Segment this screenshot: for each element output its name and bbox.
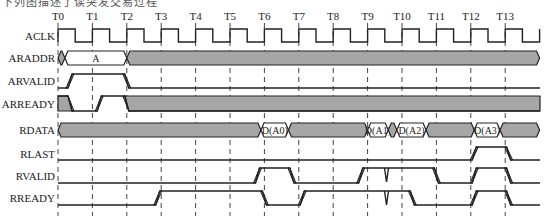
bus-undefined [58, 51, 65, 65]
time-label-t3: T3 [155, 10, 168, 22]
time-label-t4: T4 [189, 10, 202, 22]
signal-labels: ACLKARADDRARVALIDARREADYRDATARLASTRVALID… [2, 30, 56, 205]
wave-aclk [58, 29, 540, 42]
time-label-t8: T8 [327, 10, 340, 22]
bus-undefined [426, 123, 474, 137]
time-label-t11: T11 [428, 10, 445, 22]
bus-value-label: D(A2) [398, 125, 424, 137]
signal-label-rready: RREADY [10, 192, 55, 204]
time-label-t1: T1 [86, 10, 98, 22]
time-label-t9: T9 [361, 10, 374, 22]
signal-label-arready: ARREADY [2, 98, 55, 110]
time-label-t5: T5 [224, 10, 237, 22]
wave-rdata: D(A0)D(A1)D(A2)D(A3) [58, 123, 540, 137]
signal-label-aclk: ACLK [25, 30, 55, 42]
bus-undefined [500, 123, 540, 137]
wave-arready [58, 96, 540, 111]
glitch [385, 168, 389, 182]
time-label-t7: T7 [293, 10, 306, 22]
bus-value-label: D(A3) [474, 125, 500, 137]
bus-value-label: A [92, 53, 100, 64]
signal-label-rlast: RLAST [20, 148, 55, 160]
signal-label-arvalid: ARVALID [8, 75, 55, 87]
bus-value-label: D(A1) [365, 125, 391, 137]
bus-undefined [288, 123, 367, 137]
time-label-t13: T13 [496, 10, 514, 22]
time-label-t6: T6 [258, 10, 271, 22]
time-label-t0: T0 [52, 10, 65, 22]
timing-diagram: T0T1T2T3T4T5T6T7T8T9T10T11T12T13 ACLKARA… [0, 0, 549, 220]
signal-label-araddr: ARADDR [9, 52, 56, 64]
bus-undefined [58, 123, 261, 137]
signal-label-rvalid: RVALID [16, 170, 55, 182]
bus-undefined [127, 51, 540, 65]
signal-label-rdata: RDATA [19, 124, 55, 136]
time-labels: T0T1T2T3T4T5T6T7T8T9T10T11T12T13 [52, 10, 515, 22]
bus-value-label: D(A0) [262, 125, 288, 137]
time-label-t2: T2 [121, 10, 133, 22]
glitch [385, 191, 389, 205]
time-label-t10: T10 [393, 10, 411, 22]
wave-araddr: A [58, 51, 540, 65]
time-label-t12: T12 [462, 10, 480, 22]
